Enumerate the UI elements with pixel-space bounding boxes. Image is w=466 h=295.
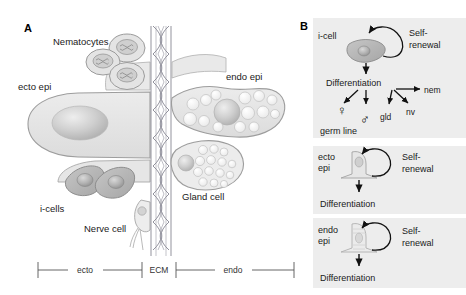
scale-label-endo: endo	[224, 265, 243, 275]
ecto-epi-cell	[28, 92, 150, 158]
scale-label-ecm: ECM	[150, 265, 169, 275]
panel-a: A ecto epi	[18, 22, 294, 278]
label-gland-cell: Gland cell	[182, 191, 224, 202]
lineage-endo-epi: endo epi Self- renewal Differentiation	[313, 218, 466, 288]
panel-b-label: B	[300, 20, 308, 32]
label-i-cell: i-cell	[318, 31, 337, 41]
label-endo-epi: endo epi	[226, 71, 262, 82]
label-nematocytes: Nematocytes	[53, 36, 109, 47]
panel-b: B i-cell Self- renewal Differentiation ♀…	[300, 18, 466, 288]
lineage-i-cell: i-cell Self- renewal Differentiation ♀ ♂…	[313, 18, 466, 138]
scale-label-ecto: ecto	[77, 265, 93, 275]
label-i-cells: i-cells	[40, 203, 65, 214]
label-self-renewal-i-cell-1: Self-	[409, 28, 428, 38]
label-ecto-epi-b-1: ecto	[318, 152, 335, 162]
label-self-renewal-i-cell-2: renewal	[409, 40, 441, 50]
label-gld: gld	[380, 112, 392, 122]
gland-cell	[171, 141, 243, 190]
label-nem: nem	[424, 85, 441, 95]
endo-epi-cell-upper	[172, 55, 226, 78]
label-differentiation-endo-epi: Differentiation	[320, 273, 375, 283]
label-germ-line: germ line	[320, 126, 357, 136]
nematocyte	[110, 63, 145, 90]
figure-canvas: A ecto epi	[0, 0, 466, 295]
label-ecto-epi-b-2: epi	[318, 163, 330, 173]
label-endo-epi-b-2: epi	[318, 236, 330, 246]
label-self-renewal-endo-2: renewal	[402, 238, 434, 248]
label-self-renewal-ecto-1: Self-	[402, 152, 421, 162]
label-differentiation-ecto-epi: Differentiation	[320, 199, 375, 209]
label-self-renewal-ecto-2: renewal	[402, 164, 434, 174]
nerve-cell	[130, 200, 150, 250]
label-nerve-cell: Nerve cell	[84, 223, 126, 234]
label-nv: nv	[406, 107, 416, 117]
ecm-mesh	[151, 26, 171, 256]
label-differentiation-i-cell: Differentiation	[326, 78, 381, 88]
i-cell-group	[65, 166, 134, 198]
panel-a-label: A	[24, 22, 32, 34]
label-ecto-epi: ecto epi	[18, 81, 51, 92]
ecto-epi-nucleus	[52, 106, 108, 140]
endo-epi-cell	[171, 86, 284, 137]
figure-root: A ecto epi	[0, 0, 466, 295]
endo-epi-nucleus	[214, 99, 240, 125]
symbol-male: ♂	[360, 112, 370, 127]
label-self-renewal-endo-1: Self-	[402, 226, 421, 236]
label-endo-epi-b-1: endo	[318, 225, 338, 235]
gland-cell-nucleus	[178, 155, 194, 171]
symbol-female: ♀	[337, 103, 347, 118]
lineage-ecto-epi: ecto epi Self- renewal Differentiation	[313, 146, 466, 214]
